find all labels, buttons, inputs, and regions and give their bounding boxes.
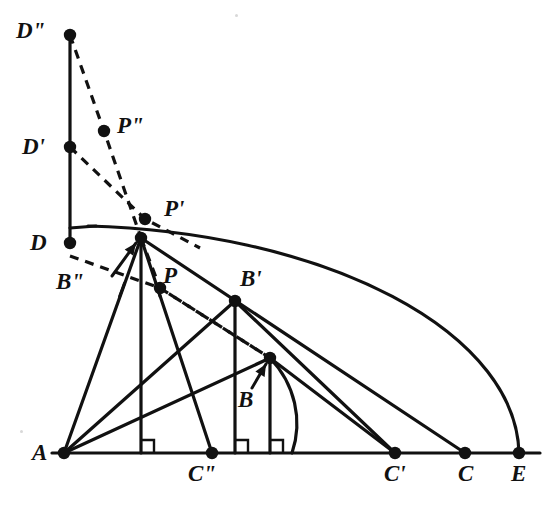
point-label-Bp: B' [240,267,262,290]
point-label-Ppp: P" [117,114,144,137]
point-label-D: D [30,231,47,254]
point-label-Bpp: B" [56,270,84,293]
Bpp-to-C [141,238,465,453]
point-label-Cp: C' [384,462,406,485]
small-arc-B-foot [270,358,297,453]
dust-speck-top [235,14,238,17]
point-label-Pp: P' [164,197,184,220]
point-label-Cpp: C" [188,462,216,485]
point-dot-D [64,237,76,249]
point-label-Dp: D' [22,135,45,158]
solid-lines-layer [52,35,540,453]
right-angle-at-B-foot [270,440,283,453]
geometry-figure: ADD'D"B"B'BPP'P"C"C'CE [0,0,556,512]
point-label-P: P [163,264,177,287]
point-label-C: C [458,462,473,485]
point-dot-Dpp [64,29,76,41]
dust-speck-left [20,430,23,433]
B-to-Cp [270,358,395,453]
arcs-layer [88,226,519,453]
main-arc-D-to-E [88,226,519,453]
point-dot-Pp [139,213,151,225]
annotation-arrows-layer [112,243,266,388]
point-dot-Dp [64,141,76,153]
point-label-A: A [32,441,47,464]
point-dot-A [58,447,70,459]
point-label-B: B [238,388,253,411]
point-label-Dpp: D" [16,19,45,42]
point-dot-Bp [229,295,241,307]
point-dot-Ppp [98,125,110,137]
point-dot-Cpp [206,447,218,459]
point-dot-Cp [389,447,401,459]
right-angle-at-Bpp-foot [141,440,154,453]
point-dot-E [513,447,525,459]
point-dot-C [459,447,471,459]
point-dot-Bpp [135,232,147,244]
point-dot-B [264,352,276,364]
point-label-E: E [511,462,526,485]
geometry-canvas [0,0,556,512]
right-angle-at-Bp-foot [235,440,248,453]
